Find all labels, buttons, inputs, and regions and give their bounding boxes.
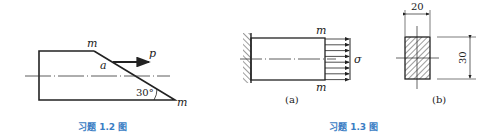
dim-height-label: 30: [457, 51, 468, 64]
label-m-bottom: m: [177, 96, 187, 109]
sub-label-a: (a): [285, 94, 299, 105]
label-a: a: [100, 59, 107, 72]
figure-1-3a: m m σ (a): [240, 24, 362, 105]
label-m-bottom-a: m: [316, 81, 326, 94]
figure-1-2: m a p 30° m 习题 1.2 图: [25, 37, 187, 132]
label-m-top: m: [87, 37, 97, 50]
label-m-top-a: m: [316, 24, 326, 37]
angle-label: 30°: [136, 87, 154, 98]
dim-width-label: 20: [411, 1, 424, 12]
figure-1-3b: 20 30 (b): [396, 1, 476, 105]
caption-1-2: 习题 1.2 图: [78, 122, 127, 132]
angle-arc: [154, 89, 157, 100]
caption-1-3: 习题 1.3 图: [329, 122, 378, 132]
label-sigma: σ: [354, 53, 362, 66]
sub-label-b: (b): [432, 94, 446, 105]
label-p: p: [149, 47, 156, 60]
diagram-canvas: m a p 30° m 习题 1.2 图 m m σ (a) 20 30 (b)…: [0, 0, 496, 137]
wall-hatch: [243, 33, 251, 83]
